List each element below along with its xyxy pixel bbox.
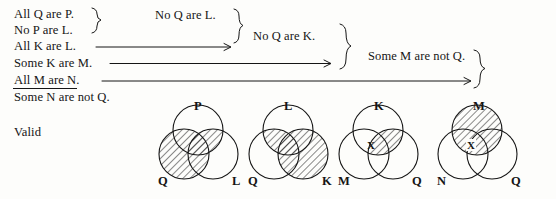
venn2-circle-Q [249, 129, 299, 179]
intermediate-conclusion-3: Some M are not Q. [368, 50, 465, 63]
venn4-circle-Q [467, 129, 517, 179]
brace-premises-1-2 [92, 8, 101, 33]
venn2-shaded-K [278, 129, 328, 179]
premise-4: Some K are M. [14, 57, 92, 70]
conclusion-separator-rule [13, 88, 77, 89]
arrow-premise4-head [324, 60, 331, 67]
venn1-circle-L [188, 129, 238, 179]
venn2-label-left: Q [248, 174, 258, 189]
venn3-circle-M [339, 129, 389, 179]
validity-verdict: Valid [14, 126, 41, 139]
venn2-circle-K [278, 129, 328, 179]
venn4-label-left: N [437, 174, 446, 189]
venn1-label-right: L [232, 174, 240, 189]
brace-group-2 [340, 24, 351, 69]
venn4-label-right: Q [511, 174, 521, 189]
intermediate-conclusion-2: No Q are K. [253, 30, 315, 43]
venn1-circle-Q [159, 129, 209, 179]
venn3-label-top: K [374, 99, 384, 114]
venn4-circle-N [438, 129, 488, 179]
venn3-circle-Q [368, 129, 418, 179]
venn3-x-mark: X [367, 139, 375, 151]
venn1-shaded-Q [159, 129, 209, 179]
proof-diagram-canvas: All Q are P. No P are L. All K are L. So… [0, 0, 556, 199]
arrow-premise3-head [224, 44, 231, 51]
venn2-label-right: K [322, 174, 332, 189]
venn1-shaded-P-L-lens [188, 129, 238, 179]
premise-2: No P are L. [14, 24, 73, 37]
premise-1: All Q are P. [14, 8, 74, 21]
venn3-label-right: Q [412, 174, 422, 189]
brace-group-1 [234, 9, 243, 43]
venn3-label-left: M [338, 174, 350, 189]
venn3-shaded-K-Q-lens [368, 129, 418, 179]
venn4-x-mark: X [466, 139, 476, 151]
arrow-premise5-head [464, 78, 471, 85]
venn1-label-top: P [194, 99, 202, 114]
venn2-label-top: L [284, 99, 292, 114]
conclusion: Some N are not Q. [14, 91, 110, 104]
premise-3: All K are L. [14, 40, 76, 53]
premise-5: All M are N. [14, 74, 80, 87]
brace-group-3 [474, 50, 485, 88]
venn1-label-left: Q [158, 174, 168, 189]
venn2-shaded-L-Q-lens [249, 129, 299, 179]
venn4-label-top: M [473, 99, 485, 114]
intermediate-conclusion-1: No Q are L. [155, 9, 216, 22]
